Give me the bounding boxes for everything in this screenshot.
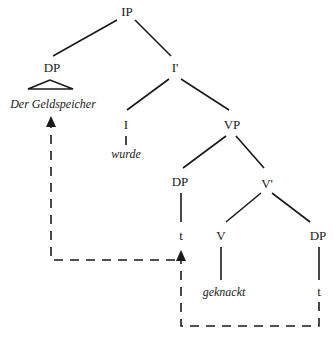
edge-vp-vbar xyxy=(236,136,264,168)
edge-ibar-i xyxy=(127,79,169,110)
node-ip: IP xyxy=(121,4,133,19)
node-dp-object: DP xyxy=(310,228,327,243)
edge-vbar-dp xyxy=(272,193,310,222)
arrowhead-up-icon xyxy=(46,116,56,127)
node-v-bar: V' xyxy=(261,176,273,191)
movement-paths xyxy=(46,116,319,326)
edge-vp-dp xyxy=(183,136,226,168)
edge-vbar-v xyxy=(226,193,261,222)
trace-object: t xyxy=(317,284,321,299)
node-vp: VP xyxy=(224,117,241,132)
edge-ip-ibar xyxy=(135,20,171,56)
word-geknackt: geknackt xyxy=(203,285,246,299)
dp-subject-triangle xyxy=(28,80,73,89)
edge-ip-dp xyxy=(53,20,117,56)
trace-spec-vp: t xyxy=(179,228,183,243)
tree-nodes: IP DP Der Geldspeicher I' I wurde VP DP … xyxy=(9,4,326,299)
word-wurde: wurde xyxy=(111,147,141,161)
edge-ibar-vp xyxy=(181,79,229,110)
node-dp-spec-vp: DP xyxy=(172,174,189,189)
node-dp-subject: DP xyxy=(44,60,61,75)
word-der-geldspeicher: Der Geldspeicher xyxy=(9,97,96,111)
node-i-bar: I' xyxy=(172,60,179,75)
node-v: V xyxy=(216,228,226,243)
arrowhead-up-icon xyxy=(176,250,186,261)
syntax-tree-diagram: IP DP Der Geldspeicher I' I wurde VP DP … xyxy=(0,0,334,339)
tree-edges xyxy=(28,20,319,280)
node-i: I xyxy=(124,117,128,132)
